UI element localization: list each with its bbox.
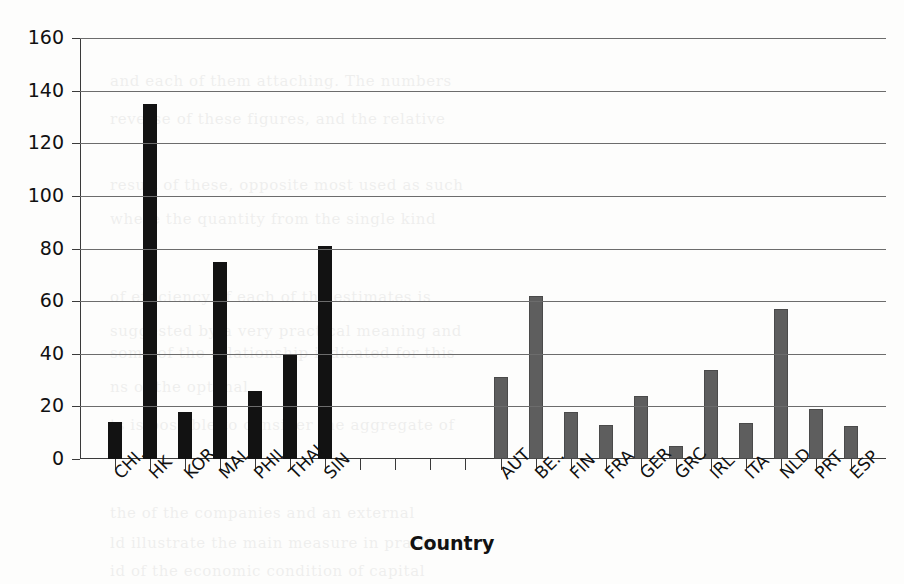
- y-tick: [72, 249, 80, 250]
- y-tick: [72, 38, 80, 39]
- y-tick-label: 160: [18, 28, 64, 47]
- bar: [564, 412, 578, 459]
- y-tick-label: 20: [18, 396, 64, 415]
- y-tick: [72, 196, 80, 197]
- x-tick: [465, 459, 466, 470]
- bar: [318, 246, 332, 459]
- y-tick: [72, 459, 80, 460]
- y-tick: [72, 301, 80, 302]
- bar: [809, 409, 823, 459]
- bar: [634, 396, 648, 459]
- plot-area: [80, 38, 886, 459]
- y-axis-labels: 020406080100120140160: [18, 38, 64, 459]
- y-tick-label: 60: [18, 291, 64, 310]
- y-tick-label: 140: [18, 81, 64, 100]
- gridline: [80, 406, 886, 407]
- x-tick: [395, 459, 396, 470]
- x-tick: [360, 459, 361, 470]
- gridline: [80, 91, 886, 92]
- y-tick-label: 40: [18, 344, 64, 363]
- y-tick-label: 100: [18, 186, 64, 205]
- bar: [529, 296, 543, 459]
- y-tick-label: 120: [18, 133, 64, 152]
- gridline: [80, 301, 886, 302]
- y-tick: [72, 91, 80, 92]
- y-tick-label: 0: [18, 449, 64, 468]
- gridline: [80, 38, 886, 39]
- bar: [599, 425, 613, 459]
- bar: [494, 377, 508, 459]
- gridline: [80, 249, 886, 250]
- gridline: [80, 354, 886, 355]
- bar: [774, 309, 788, 459]
- x-axis-title: Country: [0, 532, 904, 554]
- y-tick: [72, 143, 80, 144]
- bar: [704, 370, 718, 459]
- gridline: [80, 196, 886, 197]
- bar-chart: 020406080100120140160 CHI..HKKORMALPHILT…: [0, 0, 904, 584]
- y-tick-label: 80: [18, 239, 64, 258]
- y-tick: [72, 354, 80, 355]
- bar: [108, 422, 122, 459]
- x-axis-labels: CHI..HKKORMALPHILTHAISINAUTBE..FINFRAGER…: [80, 470, 886, 532]
- y-tick: [72, 406, 80, 407]
- bar: [248, 391, 262, 459]
- x-tick: [430, 459, 431, 470]
- bar: [739, 423, 753, 459]
- bar: [844, 426, 858, 459]
- bar: [213, 262, 227, 459]
- gridline: [80, 143, 886, 144]
- bar: [178, 412, 192, 459]
